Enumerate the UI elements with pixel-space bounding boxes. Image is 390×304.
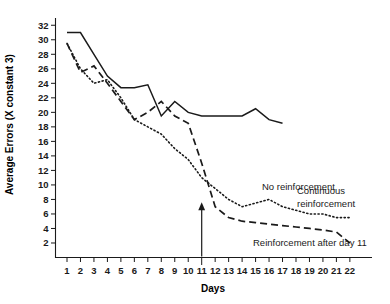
x-tick-label: 5 [118, 265, 124, 276]
x-tick-label: 4 [105, 265, 111, 276]
y-axis: 2468101214161820222426283032 Average Err… [4, 18, 56, 258]
y-tick-label: 16 [38, 136, 49, 147]
x-tick-label: 20 [318, 265, 329, 276]
series-no-reinforcement [67, 33, 283, 124]
x-tick-label: 16 [264, 265, 275, 276]
x-axis-title: Days [201, 283, 225, 294]
y-tick-label: 10 [38, 179, 49, 190]
continuous-reinforcement-label: Continuous [297, 185, 345, 196]
x-tick-label: 12 [210, 265, 221, 276]
y-tick-group [51, 25, 56, 243]
x-tick-label: 8 [159, 265, 164, 276]
y-tick-label: 20 [38, 107, 49, 118]
x-tick-label: 15 [250, 265, 261, 276]
x-tick-label: 22 [345, 265, 356, 276]
x-tick-label: 2 [78, 265, 83, 276]
treatment-arrow [198, 202, 205, 256]
y-tick-label: 14 [38, 150, 49, 161]
reinforcement-after-day-11-label: Reinforcement after day 11 [253, 237, 367, 248]
x-tick-label: 1 [64, 265, 70, 276]
y-tick-label: 4 [43, 223, 49, 234]
x-tick-label: 6 [132, 265, 137, 276]
y-tick-label: 30 [38, 34, 49, 45]
y-tick-label: 8 [43, 194, 48, 205]
x-tick-label: 17 [277, 265, 288, 276]
series-group [67, 33, 350, 243]
line-chart: 2468101214161820222426283032 Average Err… [0, 0, 390, 304]
x-tick-label: 14 [237, 265, 248, 276]
x-tick-label: 10 [183, 265, 194, 276]
arrow-head [198, 202, 205, 210]
y-tick-label: 12 [38, 165, 49, 176]
x-tick-group [67, 258, 350, 266]
y-axis-title: Average Errors (X constant 3) [4, 54, 15, 195]
y-tick-label-group: 2468101214161820222426283032 [38, 20, 49, 249]
x-tick-label: 3 [91, 265, 96, 276]
x-tick-label: 11 [197, 265, 208, 276]
y-tick-label: 26 [38, 63, 49, 74]
y-tick-label: 2 [43, 237, 48, 248]
x-tick-label: 19 [304, 265, 315, 276]
continuous-reinforcement-label-2: reinforcement [297, 198, 355, 209]
x-tick-label: 13 [223, 265, 234, 276]
x-tick-label-group: 12345678910111213141516171819202122 [64, 265, 355, 276]
y-tick-label: 22 [38, 92, 49, 103]
y-tick-label: 24 [38, 78, 49, 89]
x-tick-label: 7 [145, 265, 150, 276]
x-axis: 12345678910111213141516171819202122 Days [56, 258, 373, 295]
x-tick-label: 9 [172, 265, 177, 276]
y-tick-label: 6 [43, 208, 48, 219]
chart-container: 2468101214161820222426283032 Average Err… [0, 0, 390, 304]
x-tick-label: 18 [291, 265, 302, 276]
y-tick-label: 18 [38, 121, 49, 132]
y-tick-label: 28 [38, 49, 49, 60]
y-tick-label: 32 [38, 20, 49, 31]
x-tick-label: 21 [331, 265, 342, 276]
